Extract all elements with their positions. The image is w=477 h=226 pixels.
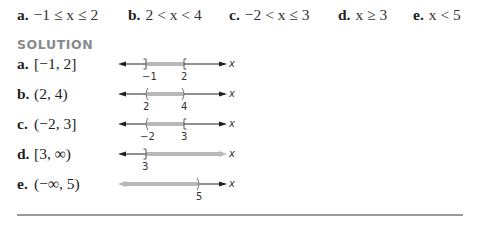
solution-row-d: d. [3, ∞) 3 x — [17, 154, 477, 184]
right-arrow-icon — [219, 151, 227, 157]
problem-a: a.−1 ≤ x ≤ 2 — [17, 6, 98, 24]
interval-notation: [−1, 2] — [34, 55, 76, 73]
svg-text:−1: −1 — [142, 71, 157, 82]
svg-text:2: 2 — [181, 71, 187, 82]
number-line: 5 x — [117, 172, 237, 202]
problem-b: b.2 < x < 4 — [128, 6, 202, 24]
problem-e: e.x < 5 — [413, 6, 461, 24]
problem-c: c.−2 < x ≤ 3 — [229, 6, 310, 24]
svg-text:x: x — [228, 58, 235, 69]
svg-text:2: 2 — [143, 101, 149, 112]
interval-notation: [3, ∞) — [34, 145, 71, 163]
number-line: −2 3 x — [117, 112, 237, 142]
right-arrow-icon — [219, 182, 227, 187]
shaded-ray — [124, 182, 199, 186]
left-arrow-icon — [118, 92, 126, 97]
interval-notation: (−∞, 5) — [34, 175, 80, 193]
svg-text:x: x — [228, 178, 235, 189]
row-label: d. — [17, 145, 30, 163]
shaded-interval — [146, 62, 184, 66]
solution-row-e: e. (−∞, 5) 5 x — [17, 184, 477, 214]
solution-row-a: a. [−1, 2] −1 2 x — [17, 64, 477, 94]
left-arrow-icon — [118, 152, 126, 157]
shaded-interval — [146, 122, 184, 126]
svg-text:4: 4 — [181, 101, 187, 112]
solution-row-c: c. (−2, 3] −2 3 x — [17, 124, 477, 154]
section-divider — [17, 214, 463, 216]
inequality: 2 < x < 4 — [146, 6, 202, 23]
left-arrow-icon — [118, 181, 126, 187]
shaded-ray — [146, 152, 221, 156]
shaded-interval — [146, 92, 184, 96]
right-arrow-icon — [219, 92, 227, 97]
svg-text:x: x — [228, 118, 235, 129]
svg-text:x: x — [228, 148, 235, 159]
inequality: x ≥ 3 — [356, 6, 388, 23]
svg-text:x: x — [228, 88, 235, 99]
problem-label: c. — [229, 6, 240, 23]
inequality: −1 ≤ x ≤ 2 — [34, 6, 99, 23]
problem-label: a. — [17, 6, 29, 23]
svg-text:3: 3 — [142, 161, 148, 172]
solution-heading: SOLUTION — [17, 37, 93, 52]
interval-notation: (−2, 3] — [34, 115, 76, 133]
inequality: −2 < x ≤ 3 — [245, 6, 310, 23]
svg-text:−2: −2 — [140, 131, 155, 142]
inequality: x < 5 — [429, 6, 461, 23]
solution-row-b: b. (2, 4) 2 4 x — [17, 94, 477, 124]
svg-text:3: 3 — [181, 131, 187, 142]
problem-label: d. — [338, 6, 351, 23]
right-arrow-icon — [219, 62, 227, 67]
svg-text:5: 5 — [196, 191, 202, 202]
number-line: 3 x — [117, 142, 237, 172]
left-arrow-icon — [118, 62, 126, 67]
row-label: a. — [17, 55, 29, 73]
number-line: 2 4 x — [117, 82, 237, 112]
row-label: c. — [17, 115, 28, 133]
number-line: −1 2 x — [117, 52, 237, 82]
left-arrow-icon — [118, 122, 126, 127]
problem-label: e. — [413, 6, 424, 23]
row-label: b. — [17, 85, 30, 103]
row-label: e. — [17, 175, 28, 193]
problem-label: b. — [128, 6, 141, 23]
right-arrow-icon — [219, 122, 227, 127]
problem-d: d.x ≥ 3 — [338, 6, 387, 24]
interval-notation: (2, 4) — [34, 85, 68, 103]
